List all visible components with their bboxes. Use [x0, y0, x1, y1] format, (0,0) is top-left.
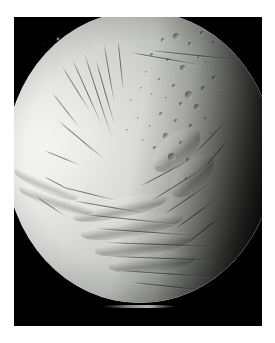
image-scene-label: planetary body photographed against blac…	[0, 0, 1, 1]
image-subject-label: icy moon	[0, 0, 1, 1]
disk-illumination-label: lit from the left, terminator on the rig…	[0, 0, 1, 1]
limb-edge-ring	[14, 17, 262, 303]
space-background-plate	[14, 17, 262, 326]
image-page: icy moon planetary body photographed aga…	[0, 0, 275, 343]
bright-limb-highlight	[100, 305, 178, 308]
moon-disk	[14, 17, 262, 303]
